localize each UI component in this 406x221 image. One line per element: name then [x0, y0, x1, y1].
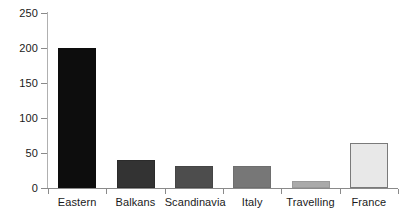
x-category-label-travelling: Travelling [281, 197, 339, 208]
x-tick-mark [106, 189, 107, 194]
y-tick-label: 0 [0, 183, 38, 194]
bar-france [350, 143, 388, 188]
plot-area [48, 13, 398, 188]
y-tick-mark [41, 48, 47, 49]
x-category-label-scandinavia: Scandinavia [165, 197, 223, 208]
x-tick-mark [340, 189, 341, 194]
x-tick-mark [48, 189, 49, 194]
y-tick-label: 200 [0, 43, 38, 54]
x-tick-mark [223, 189, 224, 194]
y-tick-mark [41, 118, 47, 119]
bar-chart: 050100150200250 EasternBalkansScandinavi… [0, 0, 406, 221]
x-category-label-italy: Italy [223, 197, 281, 208]
bar-eastern [58, 48, 96, 188]
y-tick-label: 250 [0, 8, 38, 19]
x-tick-mark [165, 189, 166, 194]
x-category-label-balkans: Balkans [106, 197, 164, 208]
y-tick-mark [41, 13, 47, 14]
x-category-label-eastern: Eastern [48, 197, 106, 208]
y-tick-label: 50 [0, 148, 38, 159]
y-tick-mark [41, 188, 47, 189]
y-tick-label: 150 [0, 78, 38, 89]
x-tick-mark [398, 189, 399, 194]
bar-italy [233, 166, 271, 188]
bar-travelling [292, 181, 330, 188]
bar-scandinavia [175, 166, 213, 188]
x-tick-mark [281, 189, 282, 194]
bar-balkans [117, 160, 155, 188]
y-tick-label: 100 [0, 113, 38, 124]
y-tick-mark [41, 153, 47, 154]
x-category-label-france: France [340, 197, 398, 208]
y-tick-mark [41, 83, 47, 84]
